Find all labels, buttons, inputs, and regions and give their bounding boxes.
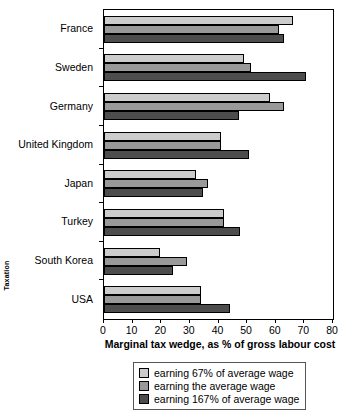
x-axis-tick-label: 0: [100, 324, 106, 336]
bar-group: [104, 132, 333, 159]
x-axis-tick-label: 10: [126, 324, 138, 336]
bar: [104, 209, 224, 218]
bar: [104, 93, 270, 102]
category-label: USA: [71, 293, 93, 305]
legend-swatch-icon: [139, 368, 149, 378]
bar: [104, 227, 240, 236]
bar: [104, 63, 251, 72]
legend-item: earning 67% of average wage: [139, 366, 299, 379]
bar: [104, 132, 221, 141]
x-axis-tick: [246, 319, 247, 323]
bar: [104, 266, 173, 275]
category-tick: [99, 202, 103, 203]
bar-chart-figure: Taxation FranceSwedenGermanyUnited Kingd…: [0, 0, 352, 415]
x-axis-tick: [275, 319, 276, 323]
x-axis-tick-label: 80: [326, 324, 338, 336]
bar: [104, 72, 306, 81]
bar: [104, 54, 244, 63]
x-axis-tick: [160, 319, 161, 323]
plot-area: [103, 9, 334, 320]
bar: [104, 25, 279, 34]
category-tick: [99, 86, 103, 87]
legend-item: earning the average wage: [139, 379, 299, 392]
legend-label: earning the average wage: [154, 380, 275, 392]
x-axis-tick-label: 70: [298, 324, 310, 336]
legend-item: earning 167% of average wage: [139, 392, 299, 405]
x-axis-tick: [103, 319, 104, 323]
x-axis-tick: [132, 319, 133, 323]
x-axis-tick-label: 20: [154, 324, 166, 336]
bar: [104, 257, 187, 266]
chart-legend: earning 67% of average wageearning the a…: [133, 362, 306, 410]
bar: [104, 179, 208, 188]
category-tick: [99, 125, 103, 126]
bar-group: [104, 93, 333, 120]
x-axis-tick: [218, 319, 219, 323]
bar: [104, 286, 201, 295]
category-axis: FranceSwedenGermanyUnited KingdomJapanTu…: [0, 9, 99, 320]
bar: [104, 102, 284, 111]
bar: [104, 150, 249, 159]
category-label: Japan: [64, 177, 93, 189]
category-label: Germany: [50, 100, 93, 112]
category-label: United Kingdom: [18, 138, 93, 150]
x-axis-title: Marginal tax wedge, as % of gross labour…: [96, 338, 344, 350]
category-label: Turkey: [61, 215, 93, 227]
bar-group: [104, 286, 333, 313]
legend-label: earning 167% of average wage: [154, 393, 299, 405]
legend-label: earning 67% of average wage: [154, 367, 294, 379]
x-axis-tick-label: 30: [183, 324, 195, 336]
bar: [104, 170, 196, 179]
x-axis-tick: [332, 319, 333, 323]
bar-group: [104, 16, 333, 43]
bar: [104, 188, 203, 197]
legend-swatch-icon: [139, 381, 149, 391]
bar: [104, 34, 284, 43]
bar-group: [104, 209, 333, 236]
category-tick: [99, 48, 103, 49]
bar: [104, 16, 293, 25]
bar-group: [104, 54, 333, 81]
bar: [104, 141, 221, 150]
category-tick: [99, 279, 103, 280]
x-axis-tick: [189, 319, 190, 323]
category-label: South Korea: [35, 254, 93, 266]
bar: [104, 218, 224, 227]
category-label: Sweden: [55, 61, 93, 73]
category-tick: [99, 164, 103, 165]
bar-group: [104, 170, 333, 197]
category-tick: [99, 241, 103, 242]
legend-swatch-icon: [139, 394, 149, 404]
bar: [104, 111, 239, 120]
category-label: France: [60, 22, 93, 34]
bar: [104, 304, 230, 313]
bar-group: [104, 248, 333, 275]
x-axis: 01020304050607080: [103, 319, 334, 339]
x-axis-tick-label: 60: [269, 324, 281, 336]
bar: [104, 248, 160, 257]
x-axis-tick: [303, 319, 304, 323]
x-axis-tick-label: 40: [212, 324, 224, 336]
x-axis-tick-label: 50: [240, 324, 252, 336]
bar: [104, 295, 201, 304]
